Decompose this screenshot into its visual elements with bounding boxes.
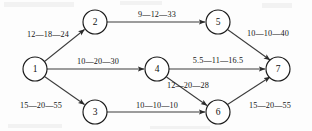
edge-4-7-label: 5.5—11—16.5 [193,56,243,65]
node-1[interactable]: 1 [23,57,47,81]
node-3[interactable]: 3 [83,100,107,124]
node-6[interactable]: 6 [206,100,230,124]
edge-2-5-label: 9—12—33 [138,10,176,19]
activity-network-diagram: 1 2 3 4 5 6 7 [0,0,312,131]
edge-4-6-label: 12—20—28 [167,81,209,90]
node-2-label: 2 [93,17,98,27]
edge-6-7-label: 15—20—55 [249,101,291,110]
node-7[interactable]: 7 [266,57,290,81]
network-graph: 1 2 3 4 5 6 7 [0,0,312,131]
node-4-label: 4 [155,64,160,74]
edge-1-4-label: 10—20—30 [77,57,119,66]
edge-3-6-label: 10—10—10 [136,101,178,110]
node-7-label: 7 [276,64,281,74]
node-1-label: 1 [33,64,38,74]
edge-1-2-label: 12—18—24 [27,30,69,39]
node-5-label: 5 [216,17,221,27]
node-4[interactable]: 4 [145,57,169,81]
node-3-label: 3 [93,107,98,117]
node-6-label: 6 [216,107,221,117]
node-5[interactable]: 5 [206,10,230,34]
edge-1-3-label: 15—20—55 [20,101,62,110]
node-2[interactable]: 2 [83,10,107,34]
edge-5-7-label: 10—10—40 [247,29,289,38]
